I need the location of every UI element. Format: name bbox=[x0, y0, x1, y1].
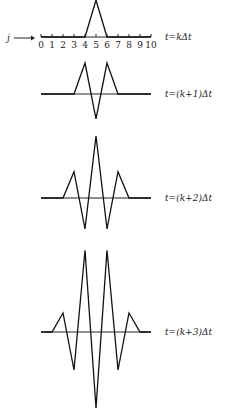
wave-profile bbox=[41, 0, 151, 37]
wave-propagation-diagram: j 012345678910 t=kΔtt=(k+1)Δtt=(k+2)Δtt=… bbox=[0, 0, 230, 410]
tick-label: 4 bbox=[82, 40, 88, 50]
time-label: t=kΔt bbox=[165, 32, 192, 42]
panel-2: t=(k+2)Δt bbox=[41, 136, 212, 229]
tick-label: 5 bbox=[93, 40, 99, 50]
tick-label: 10 bbox=[145, 40, 157, 50]
panels: t=kΔtt=(k+1)Δtt=(k+2)Δtt=(k+3)Δt bbox=[41, 0, 212, 408]
tick-label: 6 bbox=[104, 40, 110, 50]
panel-0: t=kΔt bbox=[41, 0, 192, 42]
panel-3: t=(k+3)Δt bbox=[41, 250, 212, 408]
axis-variable-label: j bbox=[5, 33, 10, 43]
tick-label: 9 bbox=[137, 40, 143, 50]
tick-label: 1 bbox=[49, 40, 55, 50]
time-label: t=(k+3)Δt bbox=[165, 327, 212, 337]
tick-label: 3 bbox=[71, 40, 77, 50]
wave-profile bbox=[41, 63, 151, 119]
arrow-right-icon bbox=[14, 36, 35, 41]
time-label: t=(k+1)Δt bbox=[165, 89, 212, 99]
time-label: t=(k+2)Δt bbox=[165, 193, 212, 203]
panel-1: t=(k+1)Δt bbox=[41, 63, 212, 119]
wave-profile bbox=[41, 136, 151, 229]
tick-label: 0 bbox=[38, 40, 44, 50]
tick-label: 2 bbox=[60, 40, 66, 50]
tick-label: 8 bbox=[126, 40, 132, 50]
wave-profile bbox=[41, 250, 151, 408]
tick-label: 7 bbox=[115, 40, 121, 50]
